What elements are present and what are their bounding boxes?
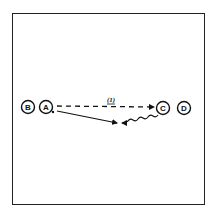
player-c-label: C (160, 104, 166, 113)
player-c: C (157, 102, 170, 115)
player-b-label: B (25, 103, 31, 112)
play-diagram: B A C D (1) (0, 0, 216, 214)
player-b: B (22, 101, 35, 114)
pass-label: (1) (107, 96, 115, 104)
pass-arrow-dashed (57, 106, 154, 107)
player-a: A (40, 101, 55, 114)
ball-icon (52, 111, 54, 113)
dribble-arrow-wavy (122, 115, 158, 123)
run-arrow-solid (57, 111, 117, 123)
player-a-label: A (43, 103, 49, 112)
player-d-label: D (181, 104, 187, 113)
player-d: D (178, 102, 191, 115)
